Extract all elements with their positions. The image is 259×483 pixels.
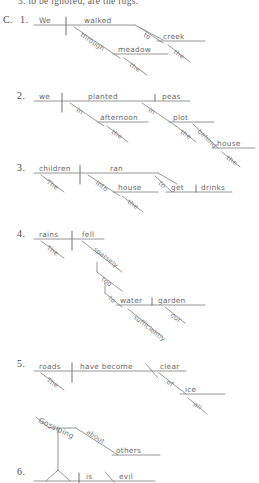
d1-prep1-object: meadow [118,45,151,54]
d5-prep1-modifier: all [192,400,203,411]
d4-verb: fell [82,230,94,239]
d2-verb: planted [88,92,118,101]
d2-object: peas [162,92,181,101]
d3-prep-into: into [94,179,110,193]
d1-subject: We [39,16,51,25]
d5-prep-of: of [165,378,175,389]
worksheet-page: 3. to be ignored, are the rugs. C. 1. 2.… [0,0,259,483]
d5-subject-article: The [44,375,60,389]
d3-subject-article: The [44,177,60,191]
d5-subject: roads [39,362,61,371]
d5-complement: clear [160,362,180,371]
d1-verb: walked [84,16,111,25]
d2-prep1-article: the [110,128,124,141]
d2-prep2-article: the [179,128,193,141]
d6-verb: is [86,472,92,481]
d2-prep3-article: the [225,154,239,167]
d2-prep3-object: house [217,139,241,148]
diagram-3: children The ran into house the to get d… [34,164,232,212]
d6-prep-about: about [85,428,106,446]
d3-infinitive-to: to [157,179,168,190]
d1-prep1-article: the [128,61,142,74]
diagram-4: rains The fell sparsely too to water gar… [34,230,205,343]
d1-prep2-object: creek [163,32,185,41]
d2-prep2-object: plot [173,113,188,122]
d4-adverb-too: too [100,275,114,288]
d4-adverb-sufficiently: sufficiently [132,313,167,343]
d5-verb: have become [80,362,133,371]
d3-subject: children [39,164,71,173]
diagram-1: We walked through meadow the to creek th… [34,16,205,75]
d2-prep-behind: behind [196,128,219,150]
d6-prep1-object: others [116,446,141,455]
d1-prep2-article: the [172,48,186,61]
d3-prep1-object: house [118,183,142,192]
d3-prep1-article: the [126,198,140,211]
diagram-5: roads The have become clear of ice all [34,362,225,414]
d1-prep-to: to [142,31,152,42]
d6-complement: evil [119,472,133,481]
diagram-6: Gossiping about others is evil [34,416,160,483]
d4-subject-article: The [44,243,60,257]
d4-subject: rains [39,230,58,239]
d4-object-modifier: our [169,311,183,324]
d2-prep1-object: afternoon [100,113,138,122]
d4-adverb-sparsely: sparsely [92,245,120,269]
d4-infinitive-verb: water [120,296,143,305]
d3-infinitive-object: drinks [201,183,225,192]
d2-subject: we [39,92,50,101]
d5-prep1-object: ice [185,385,197,394]
d3-verb: ran [110,164,123,173]
d3-infinitive-verb: get [171,183,184,192]
diagram-2: we planted peas in afternoon the in plot… [34,92,255,167]
d1-prep-through: through [79,31,106,53]
d4-infinitive-object: garden [158,296,186,305]
